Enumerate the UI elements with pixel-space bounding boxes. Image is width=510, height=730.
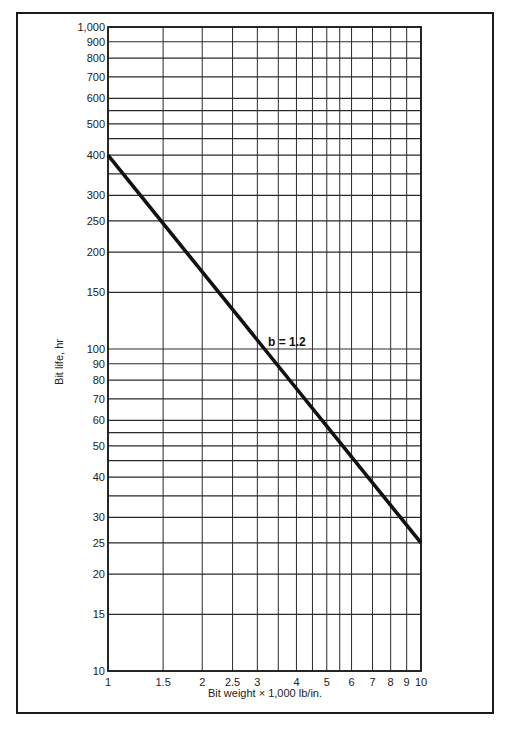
y-tick-label: 20 bbox=[93, 568, 105, 580]
x-tick-label: 8 bbox=[388, 676, 394, 688]
x-tick-label: 2 bbox=[199, 676, 205, 688]
y-tick-label: 90 bbox=[93, 358, 105, 370]
series-annotation: b = 1.2 bbox=[268, 335, 306, 349]
y-tick-label: 200 bbox=[87, 246, 105, 258]
y-tick-label: 25 bbox=[93, 537, 105, 549]
x-tick-label: 10 bbox=[415, 676, 427, 688]
y-tick-label: 150 bbox=[87, 286, 105, 298]
y-tick-label: 40 bbox=[93, 471, 105, 483]
log-log-chart: 11.522.5345678910 1015202530405060708090… bbox=[0, 0, 510, 730]
x-axis-title: Bit weight × 1,000 lb/in. bbox=[208, 687, 322, 699]
x-tick-label: 6 bbox=[348, 676, 354, 688]
y-tick-label: 700 bbox=[87, 71, 105, 83]
x-tick-label: 9 bbox=[404, 676, 410, 688]
y-tick-label: 500 bbox=[87, 118, 105, 130]
y-tick-label: 100 bbox=[87, 343, 105, 355]
y-tick-label: 15 bbox=[93, 608, 105, 620]
y-axis-ticks: 1015202530405060708090100150200250300400… bbox=[77, 21, 105, 677]
y-tick-label: 900 bbox=[87, 36, 105, 48]
y-tick-label: 250 bbox=[87, 215, 105, 227]
y-tick-label: 30 bbox=[93, 511, 105, 523]
y-tick-label: 1,000 bbox=[77, 21, 105, 33]
y-axis-title: Bit life, hr bbox=[53, 339, 65, 385]
y-tick-label: 80 bbox=[93, 374, 105, 386]
annotations: b = 1.2 bbox=[268, 335, 306, 349]
x-tick-label: 1.5 bbox=[155, 676, 170, 688]
y-tick-label: 10 bbox=[93, 665, 105, 677]
y-tick-label: 300 bbox=[87, 189, 105, 201]
y-tick-label: 600 bbox=[87, 92, 105, 104]
y-tick-label: 800 bbox=[87, 52, 105, 64]
y-tick-label: 70 bbox=[93, 393, 105, 405]
y-tick-label: 60 bbox=[93, 414, 105, 426]
x-tick-label: 1 bbox=[105, 676, 111, 688]
x-tick-label: 7 bbox=[369, 676, 375, 688]
x-tick-label: 5 bbox=[324, 676, 330, 688]
y-tick-label: 50 bbox=[93, 440, 105, 452]
y-tick-label: 400 bbox=[87, 149, 105, 161]
